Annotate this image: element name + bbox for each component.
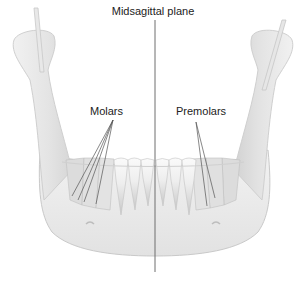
mandible-diagram: Midsagittal plane Molars Premolars [0,0,306,282]
left-ramus [13,8,72,200]
premolars-label: Premolars [176,106,226,117]
molars-label: Molars [90,106,123,117]
midsagittal-plane-label: Midsagittal plane [0,6,306,17]
right-ramus [234,20,293,200]
mandible-illustration [0,0,306,282]
